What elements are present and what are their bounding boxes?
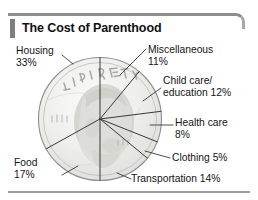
slice-label-child-care: Child care/ education 12% (163, 75, 231, 98)
coin-portrait-collar (102, 139, 122, 153)
pie-chart-canvas (0, 0, 258, 200)
slice-label-miscellaneous: Miscellaneous 11% (148, 44, 213, 67)
slice-label-transportation: Transportation 14% (131, 173, 220, 185)
slice-label-food: Food 17% (14, 157, 37, 180)
bottom-divider-rule (8, 191, 250, 193)
figure-cost-of-parenthood: The Cost of Parenthood (0, 0, 258, 200)
slice-label-clothing: Clothing 5% (172, 152, 228, 164)
leader-housing (62, 55, 73, 64)
slice-label-health-care: Health care 8% (175, 117, 228, 140)
slice-label-housing: Housing 33% (16, 45, 54, 68)
